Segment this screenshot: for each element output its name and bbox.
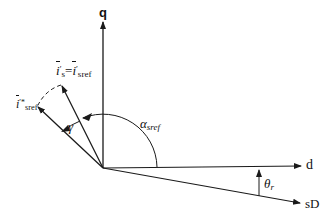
d-axis [103,166,301,168]
vector-diagram: q d sD i′s=i′sref i′*sref αsref γ θr [0,0,328,218]
isref-star-label: i′*sref [16,98,38,113]
is-label: i′s=i′sref [56,64,92,79]
dashed-arc [37,85,61,107]
d-axis-label: d [306,158,313,172]
gamma-label: γ [68,120,73,133]
alpha-arrowhead [82,113,92,121]
alpha-sref-label: αsref [140,117,160,132]
diagram-graphics [0,0,328,218]
theta-r-label: θr [264,177,274,192]
sD-axis-label: sD [305,197,319,210]
q-axis-label: q [99,6,107,19]
isref-star-vector [38,107,103,168]
